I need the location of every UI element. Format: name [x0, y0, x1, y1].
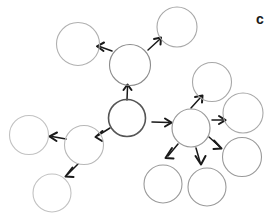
edge-hub-to-topmid [124, 85, 132, 101]
edge-layer [50, 38, 226, 178]
node-bottom-mid[interactable] [188, 168, 226, 206]
node-left-low[interactable] [33, 174, 71, 212]
node-left-far[interactable] [10, 116, 49, 155]
edge-hubright-to-low [209, 137, 222, 149]
edge-hubleft-to-far [50, 133, 67, 142]
node-right-low[interactable] [223, 138, 262, 177]
edge-hubright-to-bleft [166, 144, 179, 159]
node-bottom-left2[interactable] [144, 165, 182, 203]
node-right-up[interactable] [193, 63, 232, 102]
edge-hubright-to-bottom [196, 148, 206, 165]
edge-hubleft-to-low [66, 164, 79, 177]
node-link-graph [0, 0, 270, 217]
node-top-left[interactable] [57, 23, 100, 66]
hub-center[interactable] [109, 100, 146, 137]
corner-glyph-icon: c [256, 12, 264, 26]
edge-hub-to-hubright [152, 119, 172, 127]
node-top-right[interactable] [157, 7, 197, 47]
edge-topmid-to-topright [148, 38, 161, 51]
node-layer [10, 7, 264, 212]
node-top-mid[interactable] [110, 45, 151, 86]
diagram-canvas: c [0, 0, 270, 217]
node-right-mid[interactable] [223, 93, 263, 133]
hub-left[interactable] [65, 126, 104, 165]
hub-right[interactable] [172, 109, 210, 147]
